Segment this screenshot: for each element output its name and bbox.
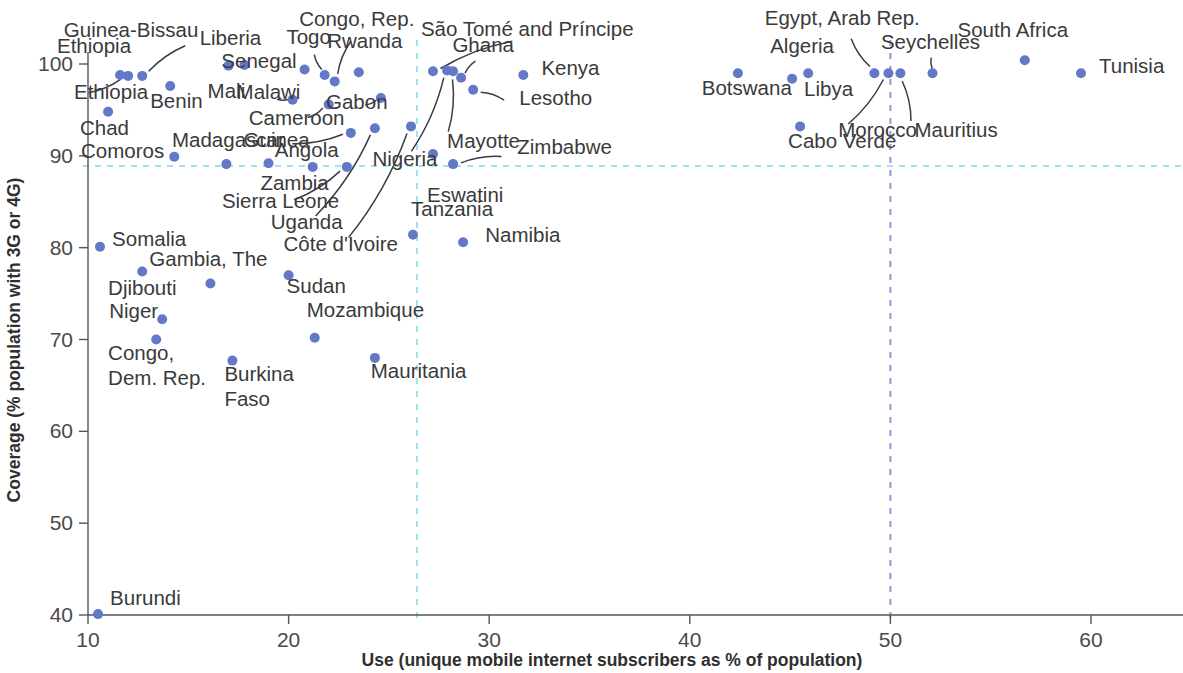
data-point[interactable] xyxy=(406,121,416,131)
point-label: Mauritania xyxy=(371,359,467,382)
point-label: Congo, Rep. xyxy=(299,7,414,30)
data-point[interactable] xyxy=(468,85,478,95)
data-point[interactable] xyxy=(448,66,458,76)
point-label: Libya xyxy=(804,77,854,100)
data-point[interactable] xyxy=(300,65,310,75)
data-point[interactable] xyxy=(310,333,320,343)
point-label: Burundi xyxy=(110,586,181,609)
point-label: Tanzania xyxy=(411,197,494,220)
label-leader-line xyxy=(461,156,502,163)
data-point[interactable] xyxy=(93,609,103,619)
point-label: Guinea-Bissau xyxy=(64,18,198,41)
data-point[interactable] xyxy=(448,159,458,169)
data-point[interactable] xyxy=(320,70,330,80)
point-label: Niger xyxy=(109,299,158,322)
x-tick-label: 60 xyxy=(1079,628,1102,651)
data-point[interactable] xyxy=(264,158,274,168)
point-label: Morocco xyxy=(838,118,917,141)
point-label: Egypt, Arab Rep. xyxy=(765,6,920,29)
point-label: Djibouti xyxy=(108,276,176,299)
label-leader-line xyxy=(465,61,475,73)
data-point[interactable] xyxy=(157,314,167,324)
point-label: Senegal xyxy=(221,49,296,72)
point-labels-group: EthiopiaGuinea-BissauEthiopiaBeninChadCo… xyxy=(57,6,1165,609)
point-label: Nigeria xyxy=(372,147,438,170)
label-leader-line xyxy=(931,58,932,69)
y-tick-label: 50 xyxy=(50,511,73,534)
point-label: Ethiopia xyxy=(74,80,149,103)
y-tick-label: 40 xyxy=(50,603,73,626)
point-label: Liberia xyxy=(200,26,262,49)
point-label: Angola xyxy=(275,138,339,161)
y-tick-label: 60 xyxy=(50,419,73,442)
point-label: Côte d'Ivoire xyxy=(284,232,398,255)
point-label: Mozambique xyxy=(307,298,424,321)
data-point[interactable] xyxy=(1020,55,1030,65)
point-label: Malawi xyxy=(237,80,301,103)
point-label: Zimbabwe xyxy=(517,135,612,158)
y-axis-title: Coverage (% population with 3G or 4G) xyxy=(4,178,24,503)
data-point[interactable] xyxy=(221,159,231,169)
x-tick-label: 30 xyxy=(478,628,501,651)
label-leader-line xyxy=(481,92,504,100)
data-point[interactable] xyxy=(408,230,418,240)
y-tick-label: 90 xyxy=(50,144,73,167)
data-point[interactable] xyxy=(928,68,938,78)
x-tick-label: 50 xyxy=(879,628,902,651)
data-point[interactable] xyxy=(330,76,340,86)
label-leader-line xyxy=(314,55,322,70)
point-label: Botswana xyxy=(702,76,793,99)
point-label: South Africa xyxy=(958,18,1069,41)
data-point[interactable] xyxy=(354,67,364,77)
label-leader-line xyxy=(902,81,911,121)
point-label: Sudan xyxy=(287,274,346,297)
data-point[interactable] xyxy=(869,68,879,78)
point-label: Benin xyxy=(150,89,202,112)
data-point[interactable] xyxy=(205,279,215,289)
point-label: Ghana xyxy=(452,33,514,56)
point-label: Chad xyxy=(80,116,129,139)
point-label: Gambia, The xyxy=(149,247,267,270)
data-point[interactable] xyxy=(518,70,528,80)
x-tick-label: 10 xyxy=(76,628,99,651)
data-point[interactable] xyxy=(169,152,179,162)
data-point[interactable] xyxy=(883,68,893,78)
point-label: Sierra Leone xyxy=(222,189,339,212)
point-label: Gabon xyxy=(326,90,388,113)
data-point[interactable] xyxy=(346,128,356,138)
point-label: Kenya xyxy=(541,56,600,79)
point-label: Rwanda xyxy=(327,29,403,52)
data-point[interactable] xyxy=(95,242,105,252)
data-point[interactable] xyxy=(456,73,466,83)
data-point[interactable] xyxy=(895,68,905,78)
point-label: Mauritius xyxy=(915,118,998,141)
x-axis-title: Use (unique mobile internet subscribers … xyxy=(362,650,863,670)
point-label: Comoros xyxy=(81,139,164,162)
point-label: Tunisia xyxy=(1099,54,1165,77)
data-point[interactable] xyxy=(428,66,438,76)
y-tick-label: 80 xyxy=(50,236,73,259)
x-tick-label: 20 xyxy=(277,628,300,651)
data-point[interactable] xyxy=(458,237,468,247)
point-label: Lesotho xyxy=(519,86,592,109)
x-tick-label: 40 xyxy=(678,628,701,651)
point-label: Namibia xyxy=(485,223,561,246)
point-label: Uganda xyxy=(271,210,343,233)
label-leader-line xyxy=(411,78,443,152)
scatter-plot-canvas: 405060708090100102030405060 EthiopiaGuin… xyxy=(0,0,1183,673)
point-label: Mayotte xyxy=(447,129,520,152)
point-label: Algeria xyxy=(770,34,834,57)
data-point[interactable] xyxy=(342,162,352,172)
point-label: Congo,Dem. Rep. xyxy=(108,341,206,389)
label-leader-line xyxy=(149,46,186,72)
point-label: BurkinaFaso xyxy=(224,362,294,410)
data-point[interactable] xyxy=(1076,68,1086,78)
scatter-chart-figure: 405060708090100102030405060 EthiopiaGuin… xyxy=(0,0,1183,673)
label-leader-line xyxy=(448,79,453,131)
y-tick-label: 70 xyxy=(50,328,73,351)
data-point[interactable] xyxy=(370,123,380,133)
label-leader-line xyxy=(851,39,870,67)
